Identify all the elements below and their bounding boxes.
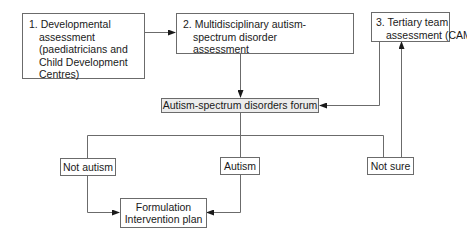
node-label: Autism-spectrum disorders forum — [163, 99, 318, 112]
node-text-line: 1. Developmental — [29, 18, 140, 31]
node-text-line: assessment (CAMHS) — [376, 29, 445, 42]
edge-forum-split — [88, 136, 384, 159]
node-label: Autism — [224, 160, 256, 173]
node-not-sure: Not sure — [367, 157, 414, 175]
node-text-line: Formulation — [136, 201, 191, 214]
node-text-line: 2. Multidisciplinary autism- — [183, 18, 349, 31]
node-not-autism: Not autism — [60, 158, 116, 176]
node-text-line: Child Development — [29, 56, 140, 69]
edge-notautism-to-formulation — [88, 175, 120, 213]
edge-autism-to-formulation — [207, 175, 241, 213]
node-forum: Autism-spectrum disorders forum — [161, 98, 319, 113]
node-text-line: (paediatricians and — [29, 43, 140, 56]
node-multidisciplinary-assessment: 2. Multidisciplinary autism- spectrum di… — [176, 13, 354, 54]
node-text-line: spectrum disorder — [183, 31, 349, 44]
node-autism: Autism — [220, 157, 260, 175]
node-text-line: assessment — [29, 31, 140, 44]
node-tertiary-assessment: 3. Tertiary team assessment (CAMHS) — [371, 12, 450, 42]
node-text-line: Intervention plan — [125, 213, 203, 226]
node-label: Not autism — [63, 161, 113, 174]
node-text-line: assessment — [183, 43, 349, 56]
node-text-line: Centres) — [29, 68, 140, 81]
node-text-line: 3. Tertiary team — [376, 16, 445, 29]
node-label: Not sure — [371, 160, 411, 173]
node-developmental-assessment: 1. Developmental assessment (paediatrici… — [22, 13, 145, 79]
node-formulation: Formulation Intervention plan — [120, 198, 207, 228]
